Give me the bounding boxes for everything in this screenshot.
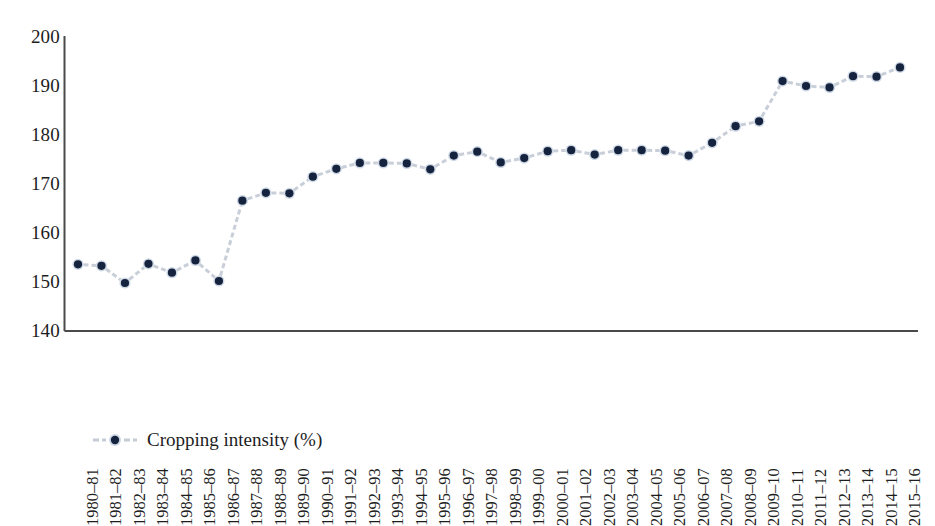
data-point [685, 151, 693, 159]
series-line-segment [530, 153, 543, 157]
y-tick-label: 170 [14, 174, 60, 193]
x-tick-label: 2010–11 [789, 430, 807, 526]
data-point [732, 122, 740, 130]
x-tick-label: 2004–05 [648, 430, 666, 526]
series-line-segment [671, 152, 684, 155]
x-tick-label: 1997–98 [483, 430, 501, 526]
chart-canvas [0, 0, 935, 340]
data-point [544, 147, 552, 155]
series-line-segment [318, 171, 331, 175]
x-tick-label: 1996–97 [460, 430, 478, 526]
series-line-segment [717, 129, 732, 139]
x-tick-label: 2009–10 [765, 430, 783, 526]
data-point [215, 277, 223, 285]
series-line-segment [482, 154, 495, 160]
x-tick-label: 1991–92 [342, 430, 360, 526]
series-line-segment [835, 79, 849, 86]
x-tick-label: 1995–96 [436, 430, 454, 526]
x-tick-label: 2012–13 [836, 430, 854, 526]
data-point [285, 189, 293, 197]
x-tick-label: 1992–93 [366, 430, 384, 526]
x-tick-label: 2011–12 [812, 430, 830, 526]
series-line-segment [177, 263, 191, 270]
data-point [262, 189, 270, 197]
series-line-segment [693, 145, 707, 152]
data-point [97, 262, 105, 270]
data-point [144, 260, 152, 268]
data-point [802, 82, 810, 90]
data-series [72, 62, 905, 289]
plot-area: 200190180170160150140 [0, 0, 935, 340]
data-point [778, 77, 786, 85]
series-line-segment [459, 153, 472, 155]
data-point [849, 72, 857, 80]
data-point [520, 154, 528, 162]
x-axis-tick-labels: 1980–811981–821982–831983–841984–851985–… [0, 334, 935, 434]
data-point [121, 279, 129, 287]
data-point [591, 151, 599, 159]
series-line-segment [342, 164, 355, 167]
y-tick-label: 150 [14, 272, 60, 291]
x-tick-label: 2003–04 [624, 430, 642, 526]
data-point [661, 147, 669, 155]
data-point [473, 148, 481, 156]
series-line-segment [412, 165, 425, 168]
series-line-segment [154, 266, 167, 271]
series-line-segment [577, 151, 590, 153]
data-point [450, 151, 458, 159]
series-line-segment [435, 158, 449, 166]
x-tick-label: 2002–03 [601, 430, 619, 526]
data-point [332, 165, 340, 173]
data-point [497, 158, 505, 166]
data-point [614, 146, 622, 154]
legend-label: Cropping intensity (%) [147, 430, 322, 450]
data-point [896, 63, 904, 71]
data-point [74, 260, 82, 268]
series-line-segment [741, 122, 754, 125]
x-tick-label: 2005–06 [671, 430, 689, 526]
legend: Cropping intensity (%) [92, 430, 322, 450]
data-point [426, 165, 434, 173]
data-point [191, 256, 199, 264]
legend-marker-icon [92, 433, 138, 447]
data-point [638, 146, 646, 154]
series-line-segment [129, 267, 144, 279]
series-line-segment [882, 69, 895, 74]
axes [65, 36, 919, 331]
data-point [309, 173, 317, 181]
data-point [403, 159, 411, 167]
x-tick-label: 2001–02 [577, 430, 595, 526]
x-tick-label: 2014–15 [883, 430, 901, 526]
x-tick-label: 2006–07 [695, 430, 713, 526]
y-tick-label: 160 [14, 223, 60, 242]
series-line-segment [83, 265, 96, 266]
series-line-segment [812, 86, 825, 87]
series-line-segment [106, 269, 121, 280]
series-line-segment [248, 195, 261, 199]
series-line-segment [762, 86, 780, 117]
data-point [567, 146, 575, 154]
data-point [168, 269, 176, 277]
data-point [872, 73, 880, 81]
series-line-segment [600, 151, 613, 153]
x-tick-label: 2008–09 [742, 430, 760, 526]
series-line-segment [200, 264, 215, 277]
x-tick-label: 2015–16 [906, 430, 924, 526]
x-tick-label: 1994–95 [413, 430, 431, 526]
data-point [238, 197, 246, 205]
y-axis-tick-labels: 200190180170160150140 [14, 0, 60, 340]
data-point [356, 159, 364, 167]
series-line-segment [788, 82, 801, 85]
data-point [755, 117, 763, 125]
series-line-segment [294, 180, 309, 190]
data-point [379, 159, 387, 167]
series-line-segment [506, 159, 519, 161]
data-point [825, 83, 833, 91]
x-tick-label: 2013–14 [859, 430, 877, 526]
series-line-segment [553, 150, 565, 151]
series-line-segment [220, 206, 240, 276]
x-tick-label: 1999–00 [530, 430, 548, 526]
y-tick-label: 180 [14, 125, 60, 144]
x-tick-label: 2000–01 [554, 430, 572, 526]
